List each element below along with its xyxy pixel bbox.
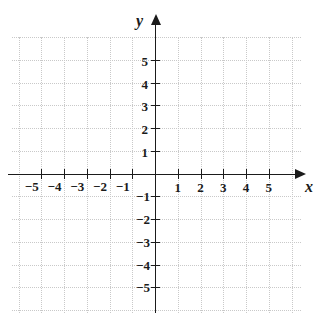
coordinate-plane: −5 −4 −3 −2 −1 1 2 3 4 5 5 4 3 2 1 −1 −2… xyxy=(0,0,317,321)
x-tick-label-4: 4 xyxy=(243,181,250,194)
y-tick-label-5: 5 xyxy=(142,54,149,67)
label-layer: −5 −4 −3 −2 −1 1 2 3 4 5 5 4 3 2 1 −1 −2… xyxy=(0,0,317,321)
x-tick-label-1: 1 xyxy=(175,181,182,194)
y-tick-label--2: −2 xyxy=(136,213,150,226)
x-tick-label-5: 5 xyxy=(266,181,273,194)
x-axis-label: x xyxy=(305,179,313,195)
y-tick-label-1: 1 xyxy=(142,145,149,158)
x-tick-label--2: −2 xyxy=(93,180,107,193)
x-tick-label--1: −1 xyxy=(116,180,130,193)
x-tick-label-2: 2 xyxy=(197,181,204,194)
y-tick-label--3: −3 xyxy=(136,235,150,248)
x-tick-label--5: −5 xyxy=(25,180,39,193)
y-tick-label--4: −4 xyxy=(136,258,150,271)
y-axis-label: y xyxy=(136,13,143,29)
y-tick-label--5: −5 xyxy=(136,281,150,294)
y-tick-label-4: 4 xyxy=(142,77,149,90)
x-tick-label--3: −3 xyxy=(70,180,84,193)
x-tick-label-3: 3 xyxy=(220,181,227,194)
y-tick-label--1: −1 xyxy=(136,190,150,203)
y-tick-label-3: 3 xyxy=(142,100,149,113)
x-tick-label--4: −4 xyxy=(48,180,62,193)
y-tick-label-2: 2 xyxy=(142,123,149,136)
